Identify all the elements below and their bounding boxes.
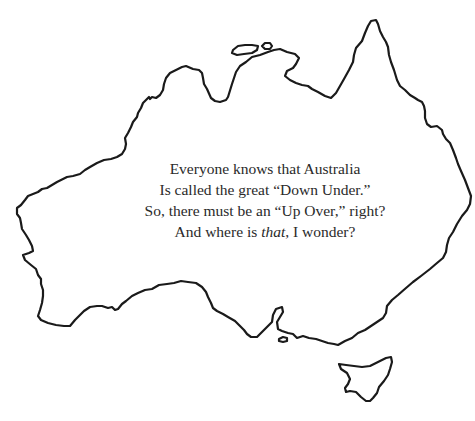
poem-line-4-italic: that — [261, 223, 285, 240]
poem-line-3: So, there must be an “Up Over,” right? — [140, 200, 390, 221]
tasmania-outline — [339, 357, 392, 401]
poem-line-1: Everyone knows that Australia — [140, 158, 390, 179]
poem-line-2: Is called the great “Down Under.” — [140, 179, 390, 200]
poem-line-4: And where is that, I wonder? — [140, 221, 390, 242]
poem-line-4-end: , I wonder? — [285, 223, 355, 240]
poem-text: Everyone knows that Australia Is called … — [140, 158, 390, 242]
tiwi-island-outline — [232, 45, 258, 55]
poem-line-4-start: And where is — [175, 223, 262, 240]
melville-island-outline — [262, 43, 272, 49]
kangaroo-island-outline — [279, 337, 287, 342]
